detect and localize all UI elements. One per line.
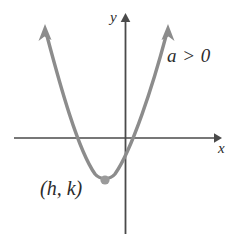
parabola-curve-group — [39, 24, 175, 185]
x-axis — [14, 133, 222, 143]
y-axis-label: y — [110, 10, 117, 25]
coefficient-condition-label: a > 0 — [167, 46, 211, 65]
y-axis — [121, 13, 131, 234]
vertex-point-marker — [100, 175, 109, 184]
parabola-curve — [47, 36, 166, 179]
parabola-right-arrowhead-icon — [162, 24, 175, 41]
parabola-left-arrowhead-icon — [39, 24, 52, 41]
x-axis-label: x — [218, 141, 225, 156]
parabola-graph-svg — [0, 0, 240, 234]
y-axis-arrowhead-icon — [121, 13, 131, 22]
parabola-figure: y x a > 0 (h, k) — [0, 0, 240, 234]
vertex-label: (h, k) — [40, 178, 82, 198]
